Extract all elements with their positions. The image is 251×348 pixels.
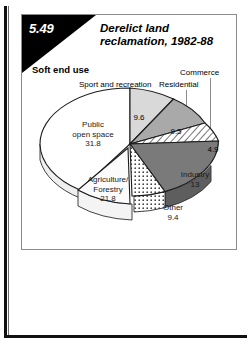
public-name: Public (82, 120, 104, 129)
slice-label-commerce-value: 4.9 (202, 145, 224, 155)
slice-label-industry: Industry 13 (172, 170, 218, 189)
agriculture-name2: Forestry (93, 185, 122, 194)
pie-chart (22, 15, 238, 251)
page-canvas: 5.49 Derelict land reclamation, 1982-88 … (0, 0, 251, 348)
slice-label-sport-value: 9.6 (127, 113, 151, 123)
page-left-hairline (8, 6, 9, 336)
other-value: 9.4 (167, 213, 178, 222)
page-bottom-rule (4, 335, 247, 338)
slice-label-other: Other 9.4 (155, 203, 191, 222)
agriculture-name: Agriculture/ (88, 175, 128, 184)
public-name2: open space (72, 130, 113, 139)
slice-label-public-open-space: Public open space 31.8 (58, 120, 128, 149)
slice-label-agriculture-forestry: Agriculture/ Forestry 21.8 (70, 175, 146, 204)
industry-value: 13 (191, 180, 200, 189)
agriculture-value: 21.8 (100, 194, 116, 203)
pie-chart-svg (22, 15, 238, 251)
figure-box: 5.49 Derelict land reclamation, 1982-88 … (21, 14, 237, 250)
public-value: 31.8 (85, 139, 101, 148)
page-left-rule (4, 6, 7, 338)
industry-name: Industry (181, 170, 209, 179)
other-name: Other (163, 203, 183, 212)
slice-label-residential-value: 9.5 (164, 127, 188, 137)
